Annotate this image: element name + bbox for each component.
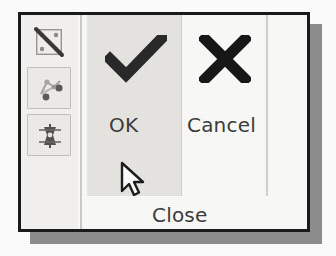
rail-divider (80, 15, 82, 229)
icon-rail (21, 15, 78, 229)
confirm-toolbar-panel: OK Cancel Close (18, 12, 310, 232)
toolbar-button-select-nodes[interactable] (27, 67, 71, 109)
column-divider-right (266, 15, 268, 196)
x-cross-icon[interactable] (199, 35, 251, 87)
checkmark-icon[interactable] (105, 35, 167, 87)
close-button-label[interactable]: Close (152, 203, 207, 227)
cancel-button-label[interactable]: Cancel (187, 113, 256, 137)
screenshot-canvas: OK Cancel Close (0, 0, 336, 256)
toolbar-button-select-elements[interactable] (27, 114, 71, 156)
mouse-pointer-arrow-icon (119, 161, 149, 203)
ok-button-label[interactable]: OK (109, 113, 138, 137)
toolbar-button-no-selection[interactable] (27, 21, 71, 63)
